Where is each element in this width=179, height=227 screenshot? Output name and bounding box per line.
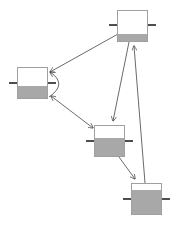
- tank-c: [86, 125, 133, 157]
- tank-level-fill: [131, 190, 162, 215]
- tank-level-fill: [117, 34, 148, 42]
- flow-arrow-a-to-b: [50, 34, 118, 72]
- flow-arrow-a-to-c: [113, 42, 129, 121]
- flow-arrow-d-to-a: [134, 46, 145, 183]
- flow-arrow-c-to-d: [119, 157, 135, 179]
- tank-network-diagram: [0, 0, 179, 227]
- flow-arrow-b-to-c: [51, 96, 93, 128]
- tank-level-fill: [94, 138, 125, 157]
- flow-arrow-b-to-b: [49, 72, 59, 97]
- tank-d: [123, 183, 170, 215]
- tank-level-fill: [17, 86, 48, 99]
- tanks-layer: [9, 10, 170, 215]
- tank-b: [9, 67, 56, 99]
- edges-layer: [49, 34, 145, 183]
- tank-a: [109, 10, 156, 42]
